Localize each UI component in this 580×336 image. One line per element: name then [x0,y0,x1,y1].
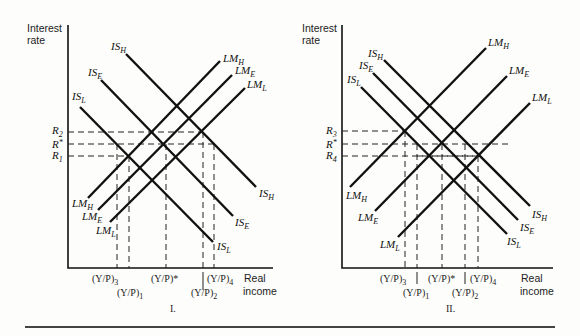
is-e-label: ISE [358,59,373,74]
y-axis-label-line1: Interest [302,22,337,34]
islm-diagram: Interest rate ISH ISE ISL LMH LME LML [0,0,580,336]
rate-tick-r1: R1 [51,149,63,164]
lm-h-end-label: LMH [345,189,368,204]
is-l-end-label: ISL [216,240,231,255]
income-tick-yp1: (Y/P)1 [117,287,143,301]
lm-l-end-label: LML [379,238,400,253]
panel-2: Interest rate ISH ISE ISL LMH LME LML IS… [302,22,554,314]
lm-l-label: LML [531,91,552,106]
income-tick-yp3: (Y/P)3 [92,273,118,287]
dashed-guides [68,132,214,268]
lm-e-end-label: LME [81,210,102,225]
dashed-guides [342,131,512,268]
income-tick-yp4: (Y/P)4 [470,273,496,287]
is-h-label: ISH [367,47,384,62]
income-tick-yp3: (Y/P)3 [380,273,406,287]
is-l-end-label: ISL [506,235,521,250]
lm-e-label: LME [508,64,529,79]
is-e-end-label: ISE [234,216,249,231]
panel-1: Interest rate ISH ISE ISL LMH LME LML [27,22,277,314]
lm-e-label: LME [234,64,255,79]
x-axis-label-line1: Real [521,272,543,284]
income-tick-yp4: (Y/P)4 [207,273,233,287]
income-tick-ypstar: (Y/P)* [151,273,178,285]
is-h-end-label: ISH [531,208,548,223]
y-axis-label-line1: Interest [27,22,62,34]
is-l-label: ISL [71,90,86,105]
panel-caption: I. [170,303,176,314]
lm-l-curve [398,103,530,237]
income-tick-ypstar: (Y/P)* [428,273,455,285]
lm-l-label: LML [246,78,267,93]
x-axis-label-line1: Real [244,272,266,284]
x-axis-label-line2: income [243,285,277,297]
rate-tick-r4: R4 [325,149,337,164]
is-l-label: ISL [346,73,361,88]
x-axis-label-line2: income [520,285,554,297]
lm-e-end-label: LME [357,211,378,226]
is-e-curve [373,73,518,220]
panel-caption: II. [446,303,455,314]
rate-tick-r2: R2 [51,124,63,139]
y-axis-label-line2: rate [27,34,45,46]
is-h-label: ISH [110,40,127,55]
is-e-label: ISE [87,66,102,81]
lm-h-label: LMH [487,36,510,51]
income-tick-yp2: (Y/P)2 [452,287,478,301]
is-e-end-label: ISE [519,221,534,236]
rate-tick-r3: R3 [325,124,337,139]
lm-l-end-label: LML [95,224,116,239]
is-h-end-label: ISH [258,187,275,202]
y-axis-label-line2: rate [302,34,320,46]
income-tick-yp1: (Y/P)1 [403,287,429,301]
income-tick-yp2: (Y/P)2 [191,287,217,301]
